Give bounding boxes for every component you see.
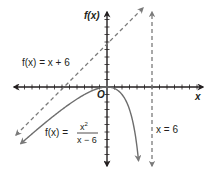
oblique-line-label: f(x) = x + 6 <box>22 57 70 68</box>
x-axis-label: x <box>194 91 201 102</box>
svg-text:x − 6: x − 6 <box>77 135 97 145</box>
vertical-asymptote-label: x = 6 <box>156 124 178 135</box>
graph: f(x) x O f(x) = x + 6 x = 6 f(x) = x2 x … <box>0 0 212 176</box>
svg-text:x2: x2 <box>80 121 89 132</box>
svg-text:f(x) =: f(x) = <box>45 127 68 138</box>
y-axis-label: f(x) <box>84 10 100 21</box>
origin-label: O <box>97 89 105 100</box>
oblique-asymptote-line <box>16 8 143 135</box>
rational-function-label: f(x) = x2 x − 6 <box>45 121 98 145</box>
